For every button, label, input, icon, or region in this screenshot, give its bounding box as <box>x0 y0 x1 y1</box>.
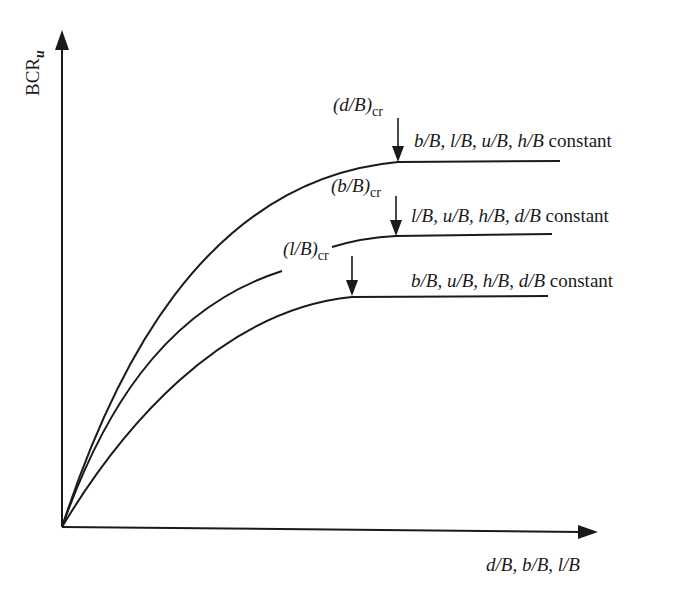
curve-label-1: b/B, l/B, u/B, h/B constant <box>414 131 612 150</box>
critical-label-l: (l/B)cr <box>283 239 329 263</box>
curve-label-3: b/B, u/B, h/B, d/B constant <box>411 271 613 290</box>
critical-label-d: (d/B)cr <box>333 95 383 119</box>
critical-arrow-d-head <box>392 146 404 162</box>
y-axis-label: BCRu <box>22 50 48 96</box>
critical-arrow-l-head <box>346 280 358 296</box>
curve-label-2: l/B, u/B, h/B, d/B constant <box>411 206 609 225</box>
curve-b-over-b-upper <box>332 234 552 247</box>
x-axis-label: d/B, b/B, l/B <box>486 555 580 574</box>
critical-label-b: (b/B)cr <box>331 176 381 200</box>
x-axis-arrowhead <box>578 525 598 539</box>
curve-b-over-b <box>62 271 282 527</box>
chart-canvas <box>0 0 674 606</box>
critical-arrow-b-head <box>390 220 402 236</box>
y-axis-arrowhead <box>55 30 69 50</box>
x-axis <box>62 527 582 532</box>
curve-l-over-b <box>62 296 548 527</box>
